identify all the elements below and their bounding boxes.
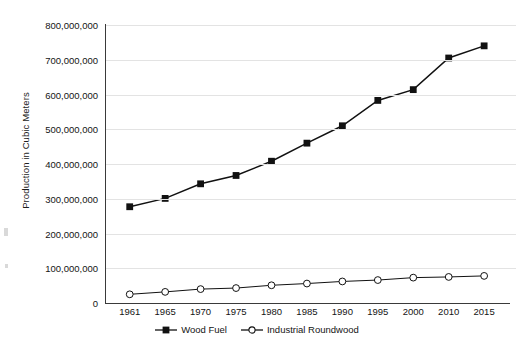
x-axis-tick-label: 1965 — [155, 306, 176, 317]
x-axis-tick-label: 1995 — [367, 306, 388, 317]
data-point-marker — [162, 288, 169, 295]
data-point-marker — [339, 278, 346, 285]
data-point-marker — [233, 285, 240, 292]
series-industrial-roundwood — [126, 273, 487, 298]
gridline — [106, 95, 516, 96]
gridline — [106, 25, 516, 26]
data-point-marker — [481, 42, 488, 49]
gridline — [106, 164, 516, 165]
y-axis-tick-label: 200,000,000 — [45, 228, 98, 239]
y-axis-tick-labels: 0100,000,000200,000,000300,000,000400,00… — [30, 0, 102, 344]
gridline — [106, 268, 516, 269]
plot-area — [106, 25, 510, 303]
x-axis-tick-label: 2000 — [403, 306, 424, 317]
data-point-marker — [304, 280, 311, 287]
data-point-marker — [197, 180, 204, 187]
legend-label: Industrial Roundwood — [267, 324, 359, 335]
y-axis-tick-label: 500,000,000 — [45, 124, 98, 135]
data-point-marker — [126, 203, 133, 210]
gridline — [106, 234, 516, 235]
x-axis-tick-label: 1990 — [332, 306, 353, 317]
gridline — [106, 199, 516, 200]
chart-legend: Wood FuelIndustrial Roundwood — [0, 324, 514, 335]
legend-entry-industrial-roundwood[interactable]: Industrial Roundwood — [241, 324, 359, 335]
x-axis-tick-label: 1970 — [190, 306, 211, 317]
legend-entry-wood-fuel[interactable]: Wood Fuel — [155, 324, 227, 335]
x-axis-tick-label: 2010 — [438, 306, 459, 317]
y-axis-tick-label: 400,000,000 — [45, 159, 98, 170]
series-line — [130, 46, 484, 207]
data-point-marker — [481, 273, 488, 280]
data-point-marker — [374, 97, 381, 104]
y-axis-tick-label: 600,000,000 — [45, 89, 98, 100]
data-point-marker — [410, 274, 417, 281]
y-axis-tick-label: 0 — [93, 298, 98, 309]
gridline — [106, 60, 516, 61]
y-axis-title-text: Production in Cubic Meters — [20, 92, 31, 209]
scan-artifact-left-lower — [5, 264, 8, 268]
series-wood-fuel — [126, 42, 487, 210]
scan-artifact-left-upper — [4, 228, 8, 236]
data-point-marker — [268, 282, 275, 289]
legend-label: Wood Fuel — [181, 324, 227, 335]
data-point-marker — [126, 291, 133, 298]
x-axis-tick-label: 1961 — [119, 306, 140, 317]
y-axis-tick-label: 800,000,000 — [45, 20, 98, 31]
data-point-marker — [339, 122, 346, 129]
x-axis-tick-label: 1985 — [296, 306, 317, 317]
x-axis-tick-label: 1975 — [225, 306, 246, 317]
data-point-marker — [445, 274, 452, 281]
data-point-marker — [410, 86, 417, 93]
y-axis-tick-label: 100,000,000 — [45, 263, 98, 274]
data-point-marker — [304, 140, 311, 147]
y-axis-tick-label: 700,000,000 — [45, 54, 98, 65]
x-axis-tick-label: 2015 — [474, 306, 495, 317]
data-point-marker — [374, 277, 381, 284]
legend-circle-marker-icon — [241, 325, 263, 335]
x-axis-line — [105, 303, 510, 304]
legend-square-marker-icon — [155, 325, 177, 335]
data-point-marker — [233, 172, 240, 179]
data-point-marker — [197, 286, 204, 293]
y-axis-tick-label: 300,000,000 — [45, 193, 98, 204]
x-axis-tick-labels: 1961196519701975198019851990199520002010… — [106, 306, 510, 322]
x-axis-tick-label: 1980 — [261, 306, 282, 317]
gridline — [106, 129, 516, 130]
